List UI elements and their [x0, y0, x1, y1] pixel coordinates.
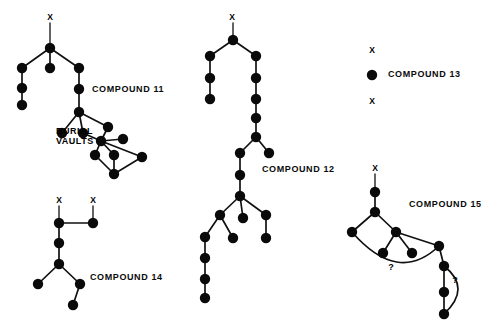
compound-figure: XCOMPOUND 11BURIALVAULTSXCOMPOUND 12XXCO… [0, 0, 496, 334]
compound-12-node [228, 233, 238, 243]
compound-14-node [54, 238, 64, 248]
compound-14-node [54, 259, 64, 269]
compound-12-node [251, 51, 261, 61]
compound-14-label: COMPOUND 14 [90, 272, 163, 282]
compound-14-terminal-marker: X [56, 195, 62, 205]
compound-11-annotation: BURIAL [56, 126, 93, 136]
compound-11-node [137, 152, 147, 162]
compound-13-label: COMPOUND 13 [388, 69, 461, 79]
compound-14-terminal-marker: X [90, 195, 96, 205]
compound-11-node [17, 83, 27, 93]
compound-14-node [33, 279, 43, 289]
compound-12-node [251, 73, 261, 83]
compound-12-node [215, 210, 225, 220]
compound-11-node [74, 107, 84, 117]
compound-15-node [439, 309, 449, 319]
compound-12-node [235, 170, 245, 180]
compound-11-node [45, 43, 55, 53]
compound-12-node [205, 94, 215, 104]
compound-14-node [75, 279, 85, 289]
compound-15-terminal-marker: X [372, 163, 378, 173]
compound-12-node [200, 293, 210, 303]
compound-11-node [74, 63, 84, 73]
compound-15-node [407, 248, 417, 258]
compound-12-node [235, 191, 245, 201]
compound-11-annotation: VAULTS [56, 136, 94, 146]
compound-13-node [367, 70, 377, 80]
compound-14-node [54, 218, 64, 228]
compound-12-node [264, 148, 274, 158]
compound-12-label: COMPOUND 12 [262, 164, 335, 174]
compound-11-label: COMPOUND 11 [92, 84, 164, 94]
compound-12-node [228, 35, 238, 45]
compound-15-node [439, 261, 449, 271]
compound-12-node [200, 253, 210, 263]
compound-12-node [235, 148, 245, 158]
compound-12-node [251, 94, 261, 104]
compound-11-node [74, 84, 84, 94]
compound-11-node [103, 122, 113, 132]
compound-11-node [109, 169, 119, 179]
compound-15-node [439, 287, 449, 297]
graph-canvas: XCOMPOUND 11BURIALVAULTSXCOMPOUND 12XXCO… [0, 0, 496, 334]
compound-15-question-marker: ? [388, 262, 394, 272]
compound-13-terminal-marker: X [369, 45, 375, 55]
compound-15-question-marker: ? [452, 275, 458, 285]
compound-12-node [200, 232, 210, 242]
compound-11-node [90, 150, 100, 160]
compound-15-node [370, 207, 380, 217]
compound-11-node [118, 134, 128, 144]
compound-11-node [45, 63, 55, 73]
compound-11-node [17, 63, 27, 73]
compound-12-node [261, 233, 271, 243]
compound-15-label: COMPOUND 15 [409, 199, 482, 209]
compound-12-node [261, 210, 271, 220]
compound-12-node [205, 51, 215, 61]
compound-15-node [378, 248, 388, 258]
compound-11-node [17, 100, 27, 110]
compound-15-node [391, 227, 401, 237]
compound-15-node [370, 187, 380, 197]
compound-12-node [251, 132, 261, 142]
compound-11-terminal-marker: X [47, 12, 53, 22]
compound-12-node [238, 213, 248, 223]
compound-12-terminal-marker: X [229, 12, 235, 22]
compound-13-terminal-marker: X [369, 96, 375, 106]
compound-12-node [251, 113, 261, 123]
compound-12-node [200, 274, 210, 284]
compound-15-node [347, 227, 357, 237]
compound-14-node [68, 300, 78, 310]
compound-12-node [205, 73, 215, 83]
compound-11-node [109, 150, 119, 160]
compound-11-node [96, 136, 106, 146]
compound-15-node [434, 241, 444, 251]
compound-14-node [88, 218, 98, 228]
